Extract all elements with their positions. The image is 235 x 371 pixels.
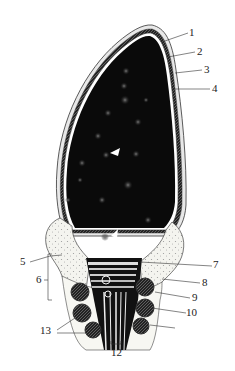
label-10: 10 [186, 307, 197, 318]
label-8: 8 [202, 277, 208, 288]
label-3: 3 [204, 64, 210, 75]
label-9: 9 [192, 292, 198, 303]
diagram-figure: 1 2 3 4 5 6 7 8 9 10 12 13 [0, 0, 235, 371]
label-5: 5 [20, 256, 26, 267]
label-6: 6 [36, 274, 42, 285]
label-7: 7 [213, 259, 219, 270]
capsule-body [66, 36, 175, 228]
label-4: 4 [212, 83, 218, 94]
label-1: 1 [189, 27, 195, 38]
label-13: 13 [40, 325, 51, 336]
label-2: 2 [197, 46, 203, 57]
label-12: 12 [111, 347, 122, 358]
